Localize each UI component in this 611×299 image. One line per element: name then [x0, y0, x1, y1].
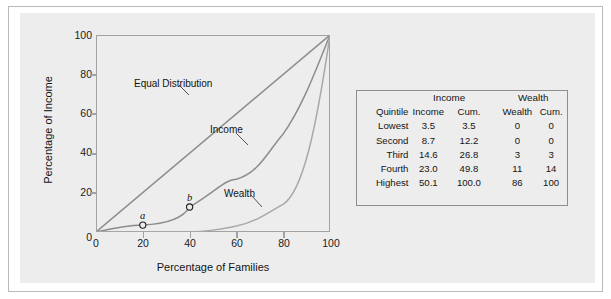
cell-income-cum: 100.0 — [448, 176, 489, 190]
curve-label-wealth: Wealth — [224, 189, 255, 199]
lorenz-plot: 100 80 60 40 20 0 0 20 40 60 80 100 — [20, 13, 360, 283]
table-body: Lowest 3.5 3.5 0 0 Second 8.7 12.2 0 0 — [357, 119, 567, 190]
cell-wealth-cum: 0 — [535, 134, 567, 148]
group-header-blank — [357, 91, 408, 105]
column-header-income: Income — [408, 105, 448, 119]
cell-income-cum: 26.8 — [448, 148, 489, 162]
x-tick-label-60: 60 — [222, 238, 252, 248]
x-tick-mark-20 — [143, 232, 145, 238]
quintile-table: Income Wealth Quintile Income Cum. Wealt… — [357, 91, 567, 190]
cell-wealth-cum: 3 — [535, 148, 567, 162]
x-axis-ticks: 0 20 40 60 80 100 — [20, 13, 360, 283]
cell-income: 23.0 — [408, 162, 448, 176]
x-tick-label-20: 20 — [128, 238, 158, 248]
cell-income: 8.7 — [408, 134, 448, 148]
cell-income: 50.1 — [408, 176, 448, 190]
x-tick-label-80: 80 — [269, 238, 299, 248]
cell-quintile: Second — [357, 134, 408, 148]
group-header-wealth: Wealth — [499, 91, 567, 105]
cell-wealth: 0 — [499, 119, 535, 133]
column-header-spacer — [490, 105, 500, 119]
cell-wealth-cum: 0 — [535, 119, 567, 133]
quintile-data-table: Income Wealth Quintile Income Cum. Wealt… — [356, 90, 568, 206]
point-label-b: b — [187, 193, 192, 203]
column-header-quintile: Quintile — [357, 105, 408, 119]
table-head: Income Wealth Quintile Income Cum. Wealt… — [357, 91, 567, 119]
y-axis-title: Percentage of Income — [42, 55, 54, 205]
table-row: Lowest 3.5 3.5 0 0 — [357, 119, 567, 133]
figure-panel: 100 80 60 40 20 0 0 20 40 60 80 100 — [20, 13, 595, 283]
table-group-header-row: Income Wealth — [357, 91, 567, 105]
table-row: Second 8.7 12.2 0 0 — [357, 134, 567, 148]
group-header-income: Income — [408, 91, 489, 105]
curve-label-equal-distribution: Equal Distribution — [134, 79, 212, 89]
column-header-wealth: Wealth — [499, 105, 535, 119]
cell-income-cum: 12.2 — [448, 134, 489, 148]
cell-quintile: Highest — [357, 176, 408, 190]
x-tick-mark-40 — [190, 232, 192, 238]
column-header-wealth-cum: Cum. — [535, 105, 567, 119]
table-row: Highest 50.1 100.0 86 100 — [357, 176, 567, 190]
x-axis-title: Percentage of Families — [96, 261, 330, 273]
table-column-header-row: Quintile Income Cum. Wealth Cum. — [357, 105, 567, 119]
x-tick-label-100: 100 — [316, 238, 346, 248]
cell-spacer — [490, 119, 500, 133]
cell-wealth: 11 — [499, 162, 535, 176]
table-row: Third 14.6 26.8 3 3 — [357, 148, 567, 162]
cell-wealth: 86 — [499, 176, 535, 190]
cell-quintile: Lowest — [357, 119, 408, 133]
cell-spacer — [490, 134, 500, 148]
group-header-spacer — [490, 91, 500, 105]
point-label-a: a — [140, 211, 145, 221]
cell-spacer — [490, 162, 500, 176]
curve-label-income: Income — [210, 125, 243, 135]
cell-wealth: 0 — [499, 134, 535, 148]
cell-quintile: Third — [357, 148, 408, 162]
cell-wealth-cum: 14 — [535, 162, 567, 176]
cell-income: 14.6 — [408, 148, 448, 162]
x-tick-mark-80 — [283, 232, 285, 238]
cell-spacer — [490, 148, 500, 162]
cell-spacer — [490, 176, 500, 190]
cell-quintile: Fourth — [357, 162, 408, 176]
cell-wealth-cum: 100 — [535, 176, 567, 190]
lorenz-curve-figure: 100 80 60 40 20 0 0 20 40 60 80 100 — [0, 0, 611, 299]
column-header-income-cum: Cum. — [448, 105, 489, 119]
cell-income-cum: 49.8 — [448, 162, 489, 176]
x-tick-label-0: 0 — [81, 238, 111, 248]
x-tick-mark-60 — [236, 232, 238, 238]
cell-income-cum: 3.5 — [448, 119, 489, 133]
table-row: Fourth 23.0 49.8 11 14 — [357, 162, 567, 176]
x-tick-label-40: 40 — [175, 238, 205, 248]
cell-wealth: 3 — [499, 148, 535, 162]
cell-income: 3.5 — [408, 119, 448, 133]
